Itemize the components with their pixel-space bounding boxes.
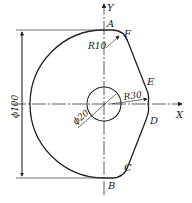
r10-leader	[106, 36, 119, 48]
point-f-label: F	[123, 28, 132, 39]
point-d-label: D	[149, 115, 158, 126]
x-axis-label: X	[175, 109, 184, 120]
y-axis-label: Y	[107, 2, 115, 13]
point-b-label: B	[107, 180, 115, 191]
r10-label: R10	[87, 41, 107, 51]
point-e-label: E	[146, 76, 155, 87]
point-a-label: A	[106, 18, 114, 29]
cam-profile-drawing: Y X A F E D C B R10 R30 ϕ20 ϕ100	[0, 0, 192, 203]
point-c-label: C	[124, 162, 132, 173]
phi100-label: ϕ100	[10, 94, 20, 118]
